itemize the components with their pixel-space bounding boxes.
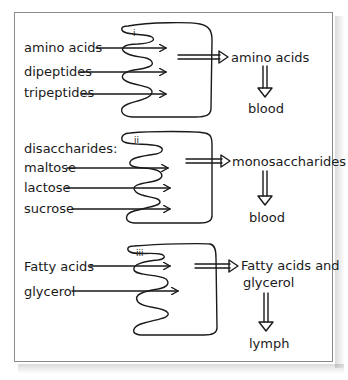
output-label: Fatty acids and [241, 258, 340, 273]
input-label: tripeptides [24, 85, 95, 100]
input-label: lactose [24, 180, 71, 195]
panel-label-ii: ii [134, 135, 139, 145]
input-label: glycerol [24, 284, 75, 299]
double-arrow-right-icon [186, 155, 230, 167]
output-label: monosaccharides [232, 154, 346, 169]
panel-iii: iii Fatty acids glycerol Fatty acids and… [24, 244, 340, 351]
output-label-line2: glycerol [243, 275, 294, 290]
panel-i: i amino acids dipeptides tripeptides ami… [24, 23, 310, 117]
output-label: amino acids [231, 50, 310, 65]
double-arrow-down-icon [258, 171, 272, 205]
double-arrow-down-icon [259, 293, 273, 331]
panel-ii: ii disaccharides: maltose lactose sucros… [24, 132, 346, 226]
panel-label-i: i [133, 28, 136, 38]
destination-label: lymph [249, 336, 289, 351]
input-label: Fatty acids [24, 259, 94, 274]
absorption-diagram: i amino acids dipeptides tripeptides ami… [0, 0, 348, 380]
double-arrow-down-icon [258, 66, 272, 97]
input-label: amino acids [24, 40, 103, 55]
input-heading: disaccharides: [24, 141, 117, 156]
input-label: sucrose [24, 201, 74, 216]
destination-label: blood [249, 210, 285, 225]
destination-label: blood [248, 101, 284, 116]
panel-label-iii: iii [136, 248, 144, 258]
double-arrow-right-icon [178, 51, 228, 63]
